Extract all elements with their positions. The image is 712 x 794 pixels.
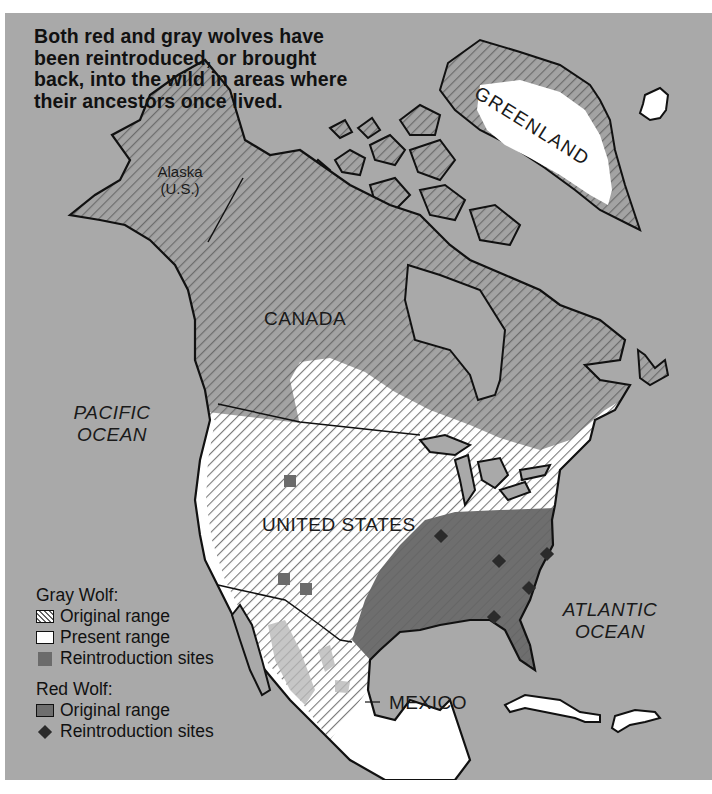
diamond-marker-icon [38, 724, 52, 738]
mexico-label: MEXICO [389, 692, 467, 714]
legend-red-wolf-title: Red Wolf: [36, 679, 214, 700]
hispaniola-island [612, 710, 660, 732]
atlantic-ocean-label: ATLANTIC OCEAN [555, 599, 665, 643]
legend-item: Reintroduction sites [36, 721, 214, 742]
legend-item: Present range [36, 627, 214, 648]
gray-wolf-site-marker [284, 475, 296, 487]
united-states-label: UNITED STATES [262, 514, 416, 536]
atlantic-ocean-label-line2: OCEAN [555, 621, 665, 643]
legend-item: Original range [36, 700, 214, 721]
legend-gray-wolf-title: Gray Wolf: [36, 585, 214, 606]
newfoundland-island [638, 350, 668, 385]
atlantic-ocean-label-line1: ATLANTIC [555, 599, 665, 621]
legend-item-label: Present range [60, 627, 170, 648]
map-legend: Gray Wolf: Original range Present range … [36, 585, 214, 742]
hatched-square-icon [36, 610, 54, 623]
alaska-label: Alaska (U.S.) [150, 163, 210, 197]
gray-wolf-site-marker [278, 573, 290, 585]
legend-item: Original range [36, 606, 214, 627]
pacific-ocean-label-line2: OCEAN [62, 424, 162, 446]
legend-item-label: Original range [60, 606, 170, 627]
mexico-present-range-patch [335, 680, 350, 693]
gray-square-marker-icon [38, 652, 52, 666]
legend-item-label: Reintroduction sites [60, 648, 214, 669]
pacific-ocean-label: PACIFIC OCEAN [62, 402, 162, 446]
white-square-icon [36, 631, 54, 644]
alaska-label-country: (U.S.) [150, 180, 210, 197]
legend-item-label: Reintroduction sites [60, 721, 214, 742]
alaska-label-name: Alaska [150, 163, 210, 180]
map-headline: Both red and gray wolves have been reint… [34, 26, 354, 112]
gray-wolf-site-marker [300, 583, 312, 595]
legend-item-label: Original range [60, 700, 170, 721]
pacific-ocean-label-line1: PACIFIC [62, 402, 162, 424]
iceland-landmass [640, 88, 668, 120]
dark-gray-square-icon [36, 704, 54, 717]
cuba-island [505, 695, 600, 722]
legend-item: Reintroduction sites [36, 648, 214, 669]
canada-label: CANADA [264, 308, 346, 330]
